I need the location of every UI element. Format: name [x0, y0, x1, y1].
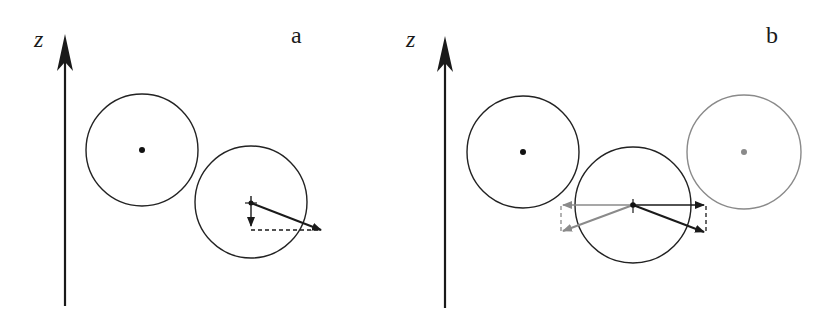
z-axis-label: z [405, 26, 416, 52]
sphere-left [86, 94, 198, 206]
sphere-center-dot [139, 147, 145, 153]
sphere-center-dot [520, 149, 526, 155]
sphere-right-gray [687, 95, 801, 209]
resultant-force-arrow [251, 203, 321, 230]
panel-a: z a [33, 22, 321, 306]
resultant-force-black-arrow [633, 205, 704, 232]
panel-label: b [766, 22, 778, 48]
z-axis-arrow [437, 36, 453, 308]
panel-label: a [291, 22, 302, 48]
z-axis-arrow [57, 34, 73, 306]
diagram-canvas: z a z b [0, 0, 828, 319]
force-vectors [561, 199, 706, 232]
panel-b: z b [405, 22, 801, 308]
sphere-left [467, 96, 579, 208]
resultant-force-gray-arrow [563, 205, 633, 231]
z-axis-label: z [33, 26, 44, 52]
force-vectors [245, 196, 321, 230]
sphere-center-dot [741, 149, 747, 155]
